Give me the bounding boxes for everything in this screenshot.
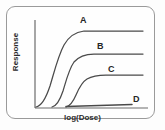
curve-label-B: B <box>97 42 104 51</box>
curve-B <box>52 54 143 107</box>
curve-label-C: C <box>108 65 115 74</box>
curve-D <box>66 105 132 107</box>
curve-A <box>36 31 143 107</box>
curve-C <box>66 75 143 107</box>
x-axis-title: log(Dose) <box>0 114 165 122</box>
curve-label-D: D <box>133 95 140 104</box>
dose-response-figure: A B C D log(Dose) Response <box>0 0 165 130</box>
curve-label-A: A <box>80 16 87 25</box>
y-axis-title: Response <box>12 22 20 82</box>
